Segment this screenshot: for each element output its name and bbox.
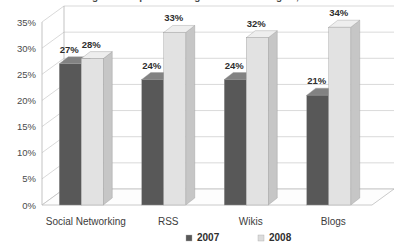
y-axis-tick-label: 20% <box>17 95 37 106</box>
category-label: Blogs <box>321 216 346 227</box>
bar-value-label: 21% <box>307 75 327 86</box>
bar-front-face <box>224 80 246 205</box>
category-label: RSS <box>158 216 179 227</box>
legend: 20072008 <box>186 232 292 243</box>
bar-front-face <box>307 95 329 205</box>
bar-front-face <box>142 80 164 205</box>
bar <box>329 20 360 205</box>
bar-chart: Percentage of companies using social tec… <box>0 0 399 251</box>
bar-value-label: 24% <box>225 60 245 71</box>
y-axis-tick-label: 30% <box>17 43 37 54</box>
bar-value-label: 34% <box>329 7 349 18</box>
bar-front-face <box>81 59 103 205</box>
bar-value-label: 28% <box>82 39 102 50</box>
bar-front-face <box>246 38 268 205</box>
legend-swatch <box>186 235 192 241</box>
bar-side-face <box>103 52 112 205</box>
bars-group <box>59 20 360 205</box>
legend-label: 2008 <box>269 232 292 243</box>
category-label: Wikis <box>239 216 263 227</box>
bar-value-label: 32% <box>247 18 267 29</box>
bar-side-face <box>351 20 360 205</box>
gridline-depth-tick <box>42 6 64 22</box>
bar <box>246 31 277 205</box>
legend-swatch <box>258 235 264 241</box>
bar <box>164 25 195 205</box>
y-axis-tick-label: 35% <box>17 17 37 28</box>
bar-value-label: 24% <box>142 60 162 71</box>
bar <box>81 52 112 205</box>
bar-front-face <box>59 64 81 205</box>
bar-front-face <box>164 32 186 205</box>
bar-value-label: 27% <box>60 44 80 55</box>
bar-value-label: 33% <box>164 12 184 23</box>
y-axis-tick-label: 25% <box>17 69 37 80</box>
bar-side-face <box>186 25 195 205</box>
category-labels-group: Social NetworkingRSSWikisBlogs <box>46 216 346 227</box>
bar-front-face <box>329 27 351 205</box>
chart-plot-area: 0%5%10%15%20%25%30%35% 27%28%24%33%24%32… <box>0 0 399 251</box>
bar-side-face <box>268 31 277 205</box>
y-axis-tick-label: 0% <box>22 200 36 211</box>
y-axis-tick-label: 5% <box>22 173 36 184</box>
y-axis-tick-label: 10% <box>17 147 37 158</box>
y-axis-tick-label: 15% <box>17 121 37 132</box>
legend-label: 2007 <box>197 232 220 243</box>
category-label: Social Networking <box>46 216 126 227</box>
y-axis-tick-labels: 0%5%10%15%20%25%30%35% <box>17 17 37 211</box>
